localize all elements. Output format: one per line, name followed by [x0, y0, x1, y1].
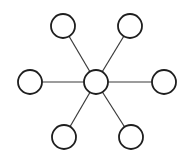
hub-node	[84, 70, 108, 94]
nodes-layer	[18, 14, 176, 149]
star-network-diagram	[0, 0, 189, 159]
leaf-node-bottom-left	[52, 125, 76, 149]
leaf-node-right	[152, 70, 176, 94]
leaf-node-top-left	[51, 14, 75, 38]
leaf-node-left	[18, 70, 42, 94]
leaf-node-bottom-right	[119, 125, 143, 149]
leaf-node-top-right	[118, 14, 142, 38]
